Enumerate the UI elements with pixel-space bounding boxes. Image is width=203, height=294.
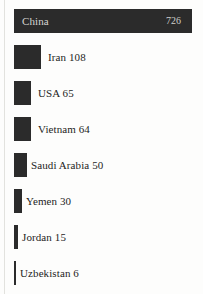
bar-label-vietnam: Vietnam 64 — [38, 116, 90, 142]
bar-label-jordan: Jordan 15 — [22, 224, 66, 250]
bar-row[interactable]: USA 65 — [0, 80, 203, 106]
bar-iran[interactable] — [14, 45, 41, 69]
horizontal-bar-chart: China 726 Iran 108 USA 65 Vietnam 64 Sau… — [0, 0, 203, 294]
bar-value-china: 726 — [166, 8, 181, 34]
bar-label-china: China — [22, 8, 49, 34]
bar-uzbekistan[interactable] — [14, 261, 16, 285]
bar-jordan[interactable] — [14, 225, 18, 249]
bar-yemen[interactable] — [14, 189, 22, 213]
bar-row[interactable]: Vietnam 64 — [0, 116, 203, 142]
bar-vietnam[interactable] — [14, 117, 31, 141]
bar-row[interactable]: Iran 108 — [0, 44, 203, 70]
bar-saudi-arabia[interactable] — [14, 153, 27, 177]
bar-row[interactable]: China 726 — [0, 8, 203, 34]
bar-row[interactable]: Yemen 30 — [0, 188, 203, 214]
bar-label-saudi-arabia: Saudi Arabia 50 — [31, 152, 103, 178]
bar-row[interactable]: Uzbekistan 6 — [0, 260, 203, 286]
bar-usa[interactable] — [14, 81, 31, 105]
bar-label-iran: Iran 108 — [48, 44, 86, 70]
bar-label-usa: USA 65 — [38, 80, 74, 106]
bar-label-yemen: Yemen 30 — [26, 188, 71, 214]
bar-row[interactable]: Saudi Arabia 50 — [0, 152, 203, 178]
bar-row[interactable]: Jordan 15 — [0, 224, 203, 250]
bar-label-uzbekistan: Uzbekistan 6 — [20, 260, 79, 286]
